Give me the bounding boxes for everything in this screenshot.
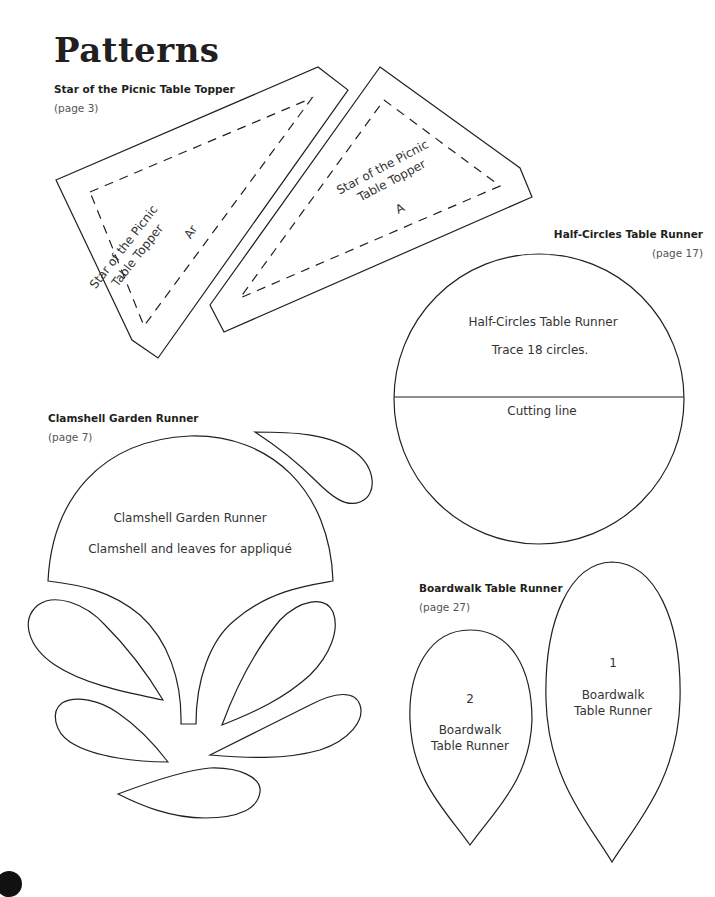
star-a-piece-id: A: [393, 200, 408, 217]
boardwalk-piece-2: [410, 630, 532, 845]
half-circle-pattern: [394, 254, 684, 544]
page-number-tab: [0, 871, 22, 897]
star-a-labels: Star of the Picnic Table Topper A: [334, 136, 441, 217]
boardwalk-1-label-line2: Table Runner: [573, 704, 652, 718]
clamshell-pattern: [28, 432, 372, 818]
boardwalk-1-number: 1: [609, 656, 617, 670]
svg-text:Star of the Picnic Table: Star of the Picnic Table Topper: [87, 200, 176, 302]
star-piece-a: [210, 67, 532, 332]
star-ar-piece-id: Ar: [181, 222, 200, 241]
boardwalk-2-label-line2: Table Runner: [430, 739, 509, 753]
half-circle-label: Half-Circles Table Runner: [468, 315, 617, 329]
clamshell-label: Clamshell Garden Runner: [113, 511, 266, 525]
boardwalk-1-label-line1: Boardwalk: [582, 688, 645, 702]
cutting-line-label: Cutting line: [507, 404, 576, 418]
half-circle-instruction: Trace 18 circles.: [491, 343, 589, 357]
star-piece-ar: [56, 67, 348, 358]
clamshell-subtitle: Clamshell and leaves for appliqué: [88, 542, 292, 556]
boardwalk-2-number: 2: [466, 692, 474, 706]
boardwalk-2-label-line1: Boardwalk: [439, 723, 502, 737]
star-ar-labels: Star of the Picnic Table Topper Ar: [87, 200, 200, 302]
